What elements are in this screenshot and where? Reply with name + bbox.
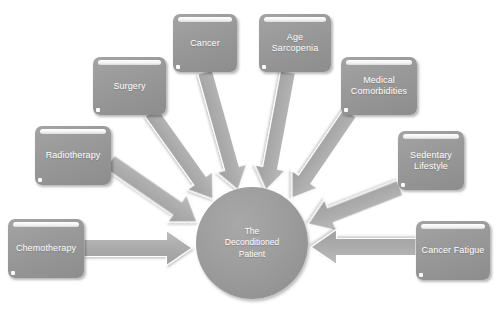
node-label-sedentary-lifestyle: Sedentary Lifestyle bbox=[406, 150, 456, 172]
corner-dot-icon bbox=[96, 108, 100, 112]
center-node[interactable]: The Deconditioned Patient bbox=[196, 187, 308, 299]
node-medical-comorbidities[interactable]: Medical Comorbidities bbox=[341, 57, 417, 115]
node-highlight-bar bbox=[40, 129, 106, 134]
node-highlight-bar bbox=[346, 60, 412, 65]
node-highlight-bar bbox=[403, 134, 459, 139]
node-highlight-bar bbox=[98, 60, 161, 65]
corner-dot-icon bbox=[38, 178, 42, 182]
node-chemotherapy[interactable]: Chemotherapy bbox=[8, 219, 84, 278]
corner-dot-icon bbox=[344, 108, 348, 112]
corner-dot-icon bbox=[419, 273, 423, 277]
node-age-sarcopenia[interactable]: Age Sarcopenia bbox=[259, 14, 331, 72]
node-cancer-fatigue[interactable]: Cancer Fatigue bbox=[416, 221, 490, 280]
node-highlight-bar bbox=[264, 17, 326, 22]
node-label-chemotherapy: Chemotherapy bbox=[12, 243, 80, 254]
node-sedentary-lifestyle[interactable]: Sedentary Lifestyle bbox=[398, 131, 464, 190]
arrow-medical-comorbidities-to-center bbox=[279, 104, 362, 206]
corner-dot-icon bbox=[11, 271, 15, 275]
node-label-medical-comorbidities: Medical Comorbidities bbox=[347, 75, 411, 97]
arrow-cancer-fatigue-to-center bbox=[311, 230, 416, 265]
node-surgery[interactable]: Surgery bbox=[93, 57, 166, 115]
node-label-age-sarcopenia: Age Sarcopenia bbox=[268, 32, 323, 54]
arrow-chemotherapy-to-center bbox=[84, 231, 192, 266]
node-highlight-bar bbox=[178, 17, 232, 22]
corner-dot-icon bbox=[401, 183, 405, 187]
center-node-label: The Deconditioned Patient bbox=[225, 226, 279, 260]
arrow-sedentary-lifestyle-to-center bbox=[302, 173, 406, 240]
node-highlight-bar bbox=[13, 222, 79, 227]
node-radiotherapy[interactable]: Radiotherapy bbox=[35, 126, 111, 185]
node-label-surgery: Surgery bbox=[109, 81, 149, 92]
corner-dot-icon bbox=[262, 65, 266, 69]
node-label-cancer: Cancer bbox=[186, 38, 224, 49]
node-cancer[interactable]: Cancer bbox=[173, 14, 237, 72]
node-label-radiotherapy: Radiotherapy bbox=[42, 150, 105, 161]
corner-dot-icon bbox=[176, 65, 180, 69]
node-highlight-bar bbox=[421, 224, 485, 229]
node-label-cancer-fatigue: Cancer Fatigue bbox=[418, 245, 489, 256]
diagram-canvas: CancerAge SarcopeniaSurgeryMedical Comor… bbox=[0, 0, 504, 314]
